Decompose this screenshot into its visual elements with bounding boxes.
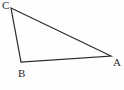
triangle-outline [11, 8, 111, 62]
vertex-label-a: A [113, 57, 121, 68]
vertex-label-b: B [18, 68, 25, 79]
triangle-figure: C B A [0, 0, 124, 90]
vertex-label-c: C [2, 0, 9, 11]
